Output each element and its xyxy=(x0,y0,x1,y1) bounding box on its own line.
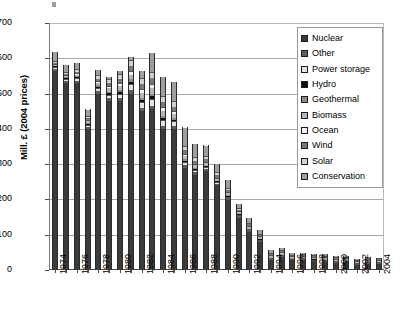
bar-segment-conservation xyxy=(193,144,197,157)
bar-segment-nuclear xyxy=(290,260,294,270)
legend-item-solar[interactable]: Solar xyxy=(301,153,379,168)
bar-1982 xyxy=(139,71,145,270)
legend-item-ocean[interactable]: Ocean xyxy=(301,123,379,138)
bar-segment-nuclear xyxy=(118,101,122,270)
legend-item-hydro[interactable]: Hydro xyxy=(301,77,379,92)
x-axis-tick-mark xyxy=(249,270,250,273)
x-axis-tick-mark xyxy=(163,270,164,273)
x-axis-tick-mark xyxy=(303,270,304,273)
x-axis-tick-mark xyxy=(174,270,175,273)
legend-label: Solar xyxy=(312,157,333,166)
bar-segment-nuclear xyxy=(334,263,338,270)
x-axis-tick-mark xyxy=(346,270,347,273)
bar-1975 xyxy=(63,65,69,270)
legend-item-nuclear[interactable]: Nuclear xyxy=(301,31,379,46)
legend-label: Wind xyxy=(312,141,333,150)
legend-label: Ocean xyxy=(312,126,339,135)
x-axis-tick-mark xyxy=(131,270,132,273)
y-axis-tick-label: 200 xyxy=(0,194,12,203)
x-axis-tick-mark xyxy=(120,270,121,273)
bar-segment-conservation xyxy=(172,82,176,102)
x-axis-tick-mark xyxy=(98,270,99,273)
bar-1986 xyxy=(182,127,188,270)
bar-segment-conservation xyxy=(53,52,57,62)
x-axis-tick-mark xyxy=(206,270,207,273)
legend-swatch-icon xyxy=(301,112,308,119)
legend-item-power-storage[interactable]: Power storage xyxy=(301,62,379,77)
legend-label: Hydro xyxy=(312,80,336,89)
y-axis-tick-mark xyxy=(45,23,49,24)
y-axis-tick-mark xyxy=(45,94,49,95)
y-axis-tick-mark xyxy=(45,58,49,59)
bar-1981 xyxy=(128,57,134,270)
bar-segment-conservation xyxy=(215,164,219,172)
bar-1980 xyxy=(117,71,123,270)
x-axis-tick-mark xyxy=(336,270,337,273)
legend-item-biomass[interactable]: Biomass xyxy=(301,107,379,122)
bar-1977 xyxy=(85,109,91,270)
bar-1990 xyxy=(225,180,231,270)
bar-1978 xyxy=(95,70,101,270)
legend-swatch-icon xyxy=(301,142,308,149)
bar-1994 xyxy=(268,250,274,270)
legend-label: Other xyxy=(312,49,335,58)
bar-1983 xyxy=(149,53,155,270)
bar-segment-nuclear xyxy=(129,94,133,270)
y-axis-tick-label: 500 xyxy=(0,89,12,98)
legend-swatch-icon xyxy=(301,158,308,165)
legend-item-wind[interactable]: Wind xyxy=(301,138,379,153)
y-axis-tick-mark xyxy=(45,164,49,165)
bar-segment-conservation xyxy=(161,77,165,96)
bar-1976 xyxy=(74,63,80,270)
bar-segment-nuclear xyxy=(312,261,316,270)
chart-legend: NuclearOtherPower storageHydroGeothermal… xyxy=(297,27,383,188)
x-axis-tick-mark xyxy=(55,270,56,273)
legend-swatch-icon xyxy=(301,66,308,73)
x-axis-tick-label: 2004 xyxy=(383,254,392,274)
bar-segment-conservation xyxy=(140,71,144,78)
y-axis-tick-label: 600 xyxy=(0,53,12,62)
y-axis-tick-label: 700 xyxy=(0,18,12,27)
legend-swatch-icon xyxy=(301,35,308,42)
x-axis-tick-mark xyxy=(195,270,196,273)
bar-segment-nuclear xyxy=(75,83,79,270)
bar-segment-nuclear xyxy=(204,171,208,270)
legend-item-conservation[interactable]: Conservation xyxy=(301,169,379,184)
x-axis-tick-mark xyxy=(239,270,240,273)
bar-segment-nuclear xyxy=(150,109,154,270)
y-axis-tick-label: 100 xyxy=(0,230,12,239)
bar-2000 xyxy=(333,256,339,270)
bar-1987 xyxy=(192,144,198,270)
legend-swatch-icon xyxy=(301,127,308,134)
bar-segment-solar xyxy=(150,72,154,79)
bar-segment-nuclear xyxy=(96,94,100,270)
bar-segment-nuclear xyxy=(172,129,176,270)
legend-swatch-icon xyxy=(301,96,308,103)
x-axis-tick-mark xyxy=(88,270,89,273)
bar-segment-nuclear xyxy=(226,200,230,270)
bar-segment-power-storage xyxy=(150,99,154,106)
x-axis-tick-mark xyxy=(282,270,283,273)
bar-1979 xyxy=(106,77,112,270)
x-axis-tick-mark xyxy=(260,270,261,273)
x-axis-tick-mark xyxy=(185,270,186,273)
bar-segment-conservation xyxy=(226,180,230,187)
y-axis-tick-mark xyxy=(45,270,49,271)
bar-1974 xyxy=(52,52,58,270)
bar-segment-nuclear xyxy=(53,71,57,270)
x-axis-tick-mark xyxy=(368,270,369,273)
y-axis-tick-mark xyxy=(45,199,49,200)
y-axis-tick-mark xyxy=(45,235,49,236)
x-axis-tick-mark xyxy=(357,270,358,273)
bar-chart: 0100200300400500600700 Mill. £ (2004 pri… xyxy=(0,0,400,314)
bar-segment-nuclear xyxy=(107,101,111,270)
legend-item-geothermal[interactable]: Geothermal xyxy=(301,92,379,107)
legend-label: Nuclear xyxy=(312,34,343,43)
legend-label: Biomass xyxy=(312,111,347,120)
bar-segment-conservation xyxy=(204,146,208,157)
y-axis-tick-label: 0 xyxy=(0,265,12,274)
x-axis-tick-mark xyxy=(152,270,153,273)
bar-1984 xyxy=(160,77,166,270)
bar-segment-nuclear xyxy=(247,232,251,270)
legend-item-other[interactable]: Other xyxy=(301,46,379,61)
